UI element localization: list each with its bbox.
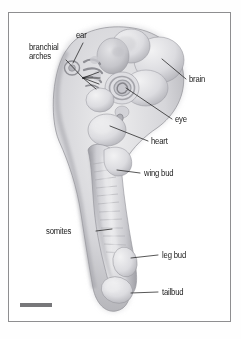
leader-tailbud: [131, 292, 158, 293]
ear-region: [65, 61, 80, 75]
label-eye: eye: [175, 115, 187, 124]
label-branchial-arches: branchial arches: [29, 43, 71, 62]
label-somites: somites: [46, 227, 71, 236]
heart-highlight: [92, 118, 112, 134]
label-wing-bud: wing bud: [144, 169, 173, 178]
label-tailbud: tailbud: [162, 288, 183, 297]
label-ear: ear: [76, 31, 87, 40]
label-branchial-arches-line2: arches: [29, 51, 51, 61]
tailbud-highlight: [104, 281, 120, 293]
label-heart: heart: [151, 137, 168, 146]
ear-inner: [69, 65, 76, 71]
brain-mottle-b: [112, 47, 124, 57]
label-brain: brain: [189, 75, 205, 84]
figure-page: ear branchial arches brain eye heart win…: [0, 0, 241, 339]
scale-bar: [20, 303, 52, 307]
label-leg-bud: leg bud: [162, 251, 186, 260]
mandibular-block: [86, 88, 114, 112]
arch-pocket-a: [90, 56, 100, 64]
